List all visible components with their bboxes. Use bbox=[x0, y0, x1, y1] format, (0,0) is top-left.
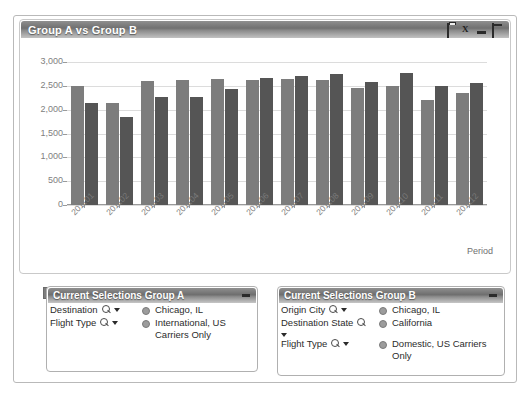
selection-value[interactable]: California bbox=[392, 317, 501, 329]
y-axis-tick-label: 1,500 bbox=[3, 128, 63, 138]
current-selections-group-b-panel: Current Selections Group B Origin CityCh… bbox=[277, 286, 505, 376]
chevron-down-icon[interactable] bbox=[112, 321, 118, 325]
x-axis-tick-labels: 2011012011022011032011042011052011062011… bbox=[67, 207, 487, 247]
bar[interactable] bbox=[470, 83, 483, 205]
bar[interactable] bbox=[386, 86, 399, 205]
x-axis-tick-slot: 201105 bbox=[211, 207, 239, 247]
y-axis-tick-label: 0 bbox=[3, 199, 63, 209]
bar-group bbox=[351, 62, 378, 205]
bar-group bbox=[281, 62, 308, 205]
bar[interactable] bbox=[141, 81, 154, 205]
chevron-down-icon[interactable] bbox=[341, 308, 347, 312]
x-axis-tick-slot: 201106 bbox=[246, 207, 274, 247]
bar[interactable] bbox=[365, 82, 378, 205]
bar[interactable] bbox=[400, 73, 413, 205]
bar[interactable] bbox=[71, 86, 84, 205]
panel-a-title: Current Selections Group A bbox=[48, 290, 184, 301]
selection-field: Flight Type bbox=[281, 338, 373, 350]
search-icon[interactable] bbox=[99, 317, 110, 328]
selection-field-label: Destination State bbox=[281, 317, 353, 329]
bar-series-container bbox=[67, 62, 487, 205]
x-axis-tick-slot: 201101 bbox=[71, 207, 99, 247]
bar-group bbox=[246, 62, 273, 205]
selection-field-label: Flight Type bbox=[50, 317, 96, 329]
chart-panel: Group A vs Group B X 3,0002,5002,0001,50… bbox=[19, 19, 511, 274]
bar[interactable] bbox=[246, 80, 259, 205]
search-icon[interactable] bbox=[330, 338, 341, 349]
x-axis-title: Period bbox=[467, 246, 493, 256]
selection-state-indicator bbox=[379, 320, 387, 328]
panel-a-minimize-icon[interactable] bbox=[242, 294, 250, 297]
plot-canvas: 3,0002,5002,0001,5001,0005000 bbox=[67, 62, 487, 205]
chart-titlebar[interactable]: Group A vs Group B X bbox=[21, 21, 509, 38]
selection-row: Flight TypeInternational, US Carriers On… bbox=[50, 317, 254, 341]
y-axis-tick-label: 2,000 bbox=[3, 104, 63, 114]
print-icon[interactable] bbox=[447, 24, 458, 35]
selection-field-label: Destination bbox=[50, 304, 98, 316]
bar[interactable] bbox=[225, 89, 238, 205]
bar[interactable] bbox=[260, 78, 273, 206]
x-axis-tick-slot: 201112 bbox=[456, 207, 484, 247]
bar[interactable] bbox=[316, 80, 329, 205]
bar[interactable] bbox=[85, 103, 98, 205]
search-icon[interactable] bbox=[356, 317, 367, 328]
selection-state-indicator bbox=[379, 341, 387, 349]
bar[interactable] bbox=[421, 100, 434, 205]
bar-group bbox=[421, 62, 448, 205]
bar[interactable] bbox=[281, 79, 294, 205]
bar[interactable] bbox=[155, 97, 168, 205]
x-axis-tick-slot: 201108 bbox=[316, 207, 344, 247]
bar[interactable] bbox=[211, 79, 224, 205]
selection-field: Destination bbox=[50, 304, 136, 316]
selection-value[interactable]: Chicago, IL bbox=[392, 304, 501, 316]
panel-b-titlebar[interactable]: Current Selections Group B bbox=[279, 288, 503, 303]
minimize-icon[interactable] bbox=[477, 24, 488, 35]
panel-a-body: DestinationChicago, ILFlight TypeInterna… bbox=[50, 304, 254, 369]
current-selections-group-a-panel: Current Selections Group A DestinationCh… bbox=[46, 286, 258, 372]
selection-field-label: Origin City bbox=[281, 304, 325, 316]
bar[interactable] bbox=[106, 103, 119, 205]
bar-group bbox=[316, 62, 343, 205]
selection-state-indicator bbox=[142, 320, 150, 328]
selection-state-indicator bbox=[379, 307, 387, 315]
bar-group bbox=[386, 62, 413, 205]
selection-value[interactable]: International, US Carriers Only bbox=[155, 317, 254, 341]
bar[interactable] bbox=[456, 93, 469, 205]
bar-group bbox=[141, 62, 168, 205]
selection-value[interactable]: Chicago, IL bbox=[155, 304, 254, 316]
maximize-icon[interactable] bbox=[492, 24, 503, 35]
x-axis-tick-slot: 201111 bbox=[421, 207, 449, 247]
selection-value[interactable]: Domestic, US Carriers Only bbox=[392, 338, 501, 362]
panel-b-title: Current Selections Group B bbox=[279, 290, 416, 301]
bar[interactable] bbox=[176, 80, 189, 205]
bar-group bbox=[176, 62, 203, 205]
search-icon[interactable] bbox=[328, 304, 339, 315]
selection-row: Flight TypeDomestic, US Carriers Only bbox=[281, 338, 501, 362]
panel-b-body: Origin CityChicago, ILDestination StateC… bbox=[281, 304, 501, 373]
y-axis-tick-label: 3,000 bbox=[3, 56, 63, 66]
chevron-down-icon[interactable] bbox=[343, 342, 349, 346]
chevron-down-icon[interactable] bbox=[114, 308, 120, 312]
chart-titlebar-icons: X bbox=[447, 24, 509, 35]
x-axis-tick-slot: 201104 bbox=[176, 207, 204, 247]
panel-b-minimize-icon[interactable] bbox=[489, 294, 497, 297]
selection-field: Destination State bbox=[281, 317, 373, 337]
bar[interactable] bbox=[330, 74, 343, 205]
chevron-down-icon[interactable] bbox=[281, 333, 287, 337]
y-axis-tick-label: 500 bbox=[3, 175, 63, 185]
bar[interactable] bbox=[351, 88, 364, 205]
excel-export-icon[interactable]: X bbox=[462, 24, 473, 35]
selection-row: Origin CityChicago, IL bbox=[281, 304, 501, 316]
bar[interactable] bbox=[190, 97, 203, 205]
y-axis-tick-label: 1,000 bbox=[3, 151, 63, 161]
bar-group bbox=[456, 62, 483, 205]
x-axis-tick-slot: 201102 bbox=[106, 207, 134, 247]
panel-a-titlebar[interactable]: Current Selections Group A bbox=[48, 288, 256, 303]
bar[interactable] bbox=[295, 76, 308, 205]
bar-group bbox=[106, 62, 133, 205]
search-icon[interactable] bbox=[101, 304, 112, 315]
bar[interactable] bbox=[435, 86, 448, 205]
selection-row: DestinationChicago, IL bbox=[50, 304, 254, 316]
selection-row: Destination StateCalifornia bbox=[281, 317, 501, 337]
selection-state-indicator bbox=[142, 307, 150, 315]
